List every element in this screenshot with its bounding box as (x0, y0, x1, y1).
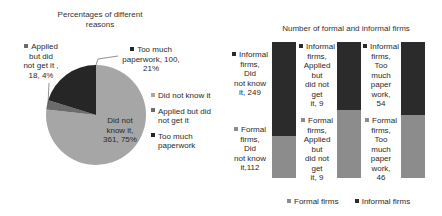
pie-label-paperwork: Too much paperwork, 100, 21% (118, 45, 184, 74)
bar-segment-informal (337, 42, 361, 110)
pie-chart: Percentages of different reasons Applied… (0, 0, 221, 216)
bar-label-formal-did-not-know: Formal firms,Did not knowit,112 (229, 125, 271, 173)
bar-did-not-know (272, 42, 296, 178)
bar-segment-informal (272, 42, 296, 136)
bar-segment-formal (272, 136, 296, 178)
legend-item-applied: Applied but didnot get it (151, 107, 221, 126)
bar-segment-formal (337, 110, 361, 178)
pie-label-applied: Applied but did not get it , 18, 4% (18, 42, 64, 80)
bar-paperwork (401, 42, 425, 178)
legend-item-informal: Informal firms (355, 197, 410, 206)
bar-label-informal-paperwork: Informal firms,Too muchpaper work,54 (362, 42, 400, 109)
legend-swatch-paperwork (130, 47, 134, 51)
bar-segment-informal (401, 42, 425, 115)
bar-chart: Number of formal and informal firms Info… (221, 0, 442, 216)
bar-title: Number of formal and informal firms (261, 24, 431, 34)
legend-swatch-applied (24, 44, 28, 48)
bar-label-formal-paperwork: Formal firms,Too muchpaper work,46 (362, 116, 400, 183)
bar-label-formal-applied: Formal firms,Applied butdid not getit, 9 (298, 116, 336, 183)
bar-applied (337, 42, 361, 178)
pie-label-did-not-know: Did not know it, 361, 75% (100, 116, 140, 145)
bar-label-informal-applied: Informal firms,Applied butdid not getit,… (298, 42, 336, 109)
legend-item-paperwork: Too muchpaperwork (151, 132, 221, 151)
legend-item-did-not-know: Did not know it (151, 91, 221, 101)
legend-item-formal: Formal firms (287, 197, 338, 206)
bar-legend: Formal firms Informal firms (287, 197, 442, 207)
pie-legend: Did not know it Applied but didnot get i… (151, 91, 221, 151)
bar-label-informal-did-not-know: Informal firms,Did not knowit, 249 (229, 50, 271, 98)
bar-segment-formal (401, 115, 425, 178)
